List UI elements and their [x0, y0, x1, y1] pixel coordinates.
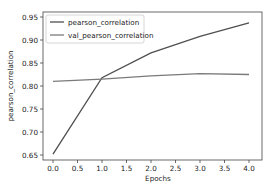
y-axis-label: pearson_correlation: [6, 50, 15, 121]
x-axis-label: Epochs: [145, 174, 171, 183]
x-tick-label: 2.5: [170, 164, 181, 173]
x-tick-label: 4.0: [243, 164, 255, 173]
x-tick-label: 3.5: [219, 164, 230, 173]
x-tick-label: 1.0: [96, 164, 108, 173]
y-tick-label: 0.65: [22, 151, 38, 160]
x-tick-label: 1.5: [121, 164, 132, 173]
x-tick-label: 3.0: [194, 164, 206, 173]
legend-label-val-pearson: val_pearson_correlation: [68, 31, 153, 40]
y-tick-label: 0.95: [22, 13, 38, 22]
x-tick-label: 2.0: [145, 164, 157, 173]
y-tick-label: 0.90: [22, 36, 38, 45]
legend: pearson_correlation val_pearson_correlat…: [46, 15, 153, 43]
y-tick-label: 0.75: [22, 105, 38, 114]
legend-label-pearson: pearson_correlation: [68, 18, 139, 27]
y-tick-label: 0.70: [22, 128, 38, 137]
y-tick-label: 0.80: [22, 82, 38, 91]
x-tick-label: 0.5: [72, 164, 83, 173]
y-axis: 0.650.700.750.800.850.900.95: [22, 13, 43, 160]
x-tick-label: 0.0: [47, 164, 59, 173]
y-tick-label: 0.85: [22, 59, 38, 68]
x-axis: 0.00.51.01.52.02.53.03.54.0: [47, 160, 255, 173]
line-chart: 0.650.700.750.800.850.900.95 0.00.51.01.…: [0, 0, 276, 190]
